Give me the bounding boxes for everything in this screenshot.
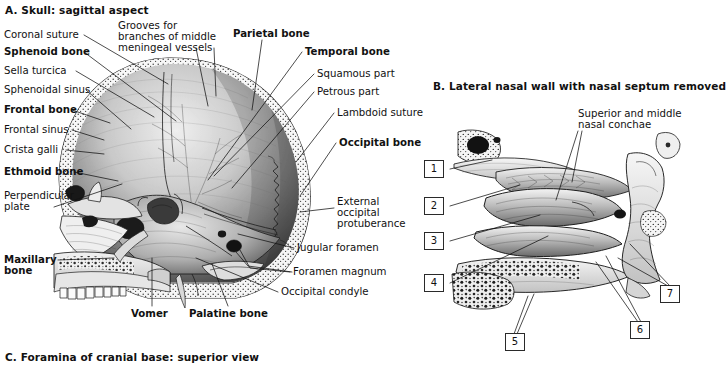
label-sphenoid-bone: Sphenoid bone — [4, 46, 90, 57]
label-occipital-bone: Occipital bone — [339, 137, 421, 148]
label-maxillary-bone: Maxillary bone — [4, 254, 57, 276]
panel-c-title: C. Foramina of cranial base: superior vi… — [5, 351, 259, 363]
label-meningeal-grooves: Grooves for branches of middle meningeal… — [118, 20, 216, 54]
skull-sagittal-illustration — [52, 58, 352, 318]
label-external-occipital-protuberance: External occipital protuberance — [337, 196, 406, 230]
label-coronal-suture: Coronal suture — [4, 29, 79, 40]
label-sella-turcica: Sella turcica — [4, 65, 67, 76]
number-box-5[interactable]: 5 — [505, 333, 525, 351]
label-sphenoidal-sinus: Sphenoidal sinus — [4, 84, 90, 95]
label-occipital-condyle: Occipital condyle — [281, 286, 369, 297]
label-jugular-foramen: Jugular foramen — [297, 242, 379, 253]
number-box-2[interactable]: 2 — [424, 197, 444, 215]
label-palatine-bone: Palatine bone — [189, 308, 268, 319]
label-superior-middle-nasal-conchae: Superior and middle nasal conchae — [578, 108, 682, 130]
number-box-7[interactable]: 7 — [660, 285, 680, 303]
lateral-nasal-wall-illustration — [452, 128, 684, 338]
number-box-1[interactable]: 1 — [424, 160, 444, 178]
number-box-3[interactable]: 3 — [424, 232, 444, 250]
label-petrous-part: Petrous part — [317, 86, 379, 97]
label-temporal-bone: Temporal bone — [305, 46, 390, 57]
label-perpendicular-plate: Perpendicular plate — [4, 190, 74, 212]
label-frontal-sinus: Frontal sinus — [4, 124, 68, 135]
label-ethmoid-bone: Ethmoid bone — [4, 166, 83, 177]
label-frontal-bone: Frontal bone — [4, 104, 77, 115]
number-box-4[interactable]: 4 — [424, 274, 444, 292]
label-parietal-bone: Parietal bone — [233, 28, 310, 39]
label-foramen-magnum: Foramen magnum — [293, 266, 387, 277]
label-crista-galli: Crista galli — [4, 144, 58, 155]
label-vomer: Vomer — [131, 308, 168, 319]
label-squamous-part: Squamous part — [317, 68, 395, 79]
panel-b-title: B. Lateral nasal wall with nasal septum … — [433, 80, 726, 92]
label-lambdoid-suture: Lambdoid suture — [337, 107, 423, 118]
panel-a-title: A. Skull: sagittal aspect — [5, 4, 149, 16]
number-box-6[interactable]: 6 — [630, 321, 650, 339]
